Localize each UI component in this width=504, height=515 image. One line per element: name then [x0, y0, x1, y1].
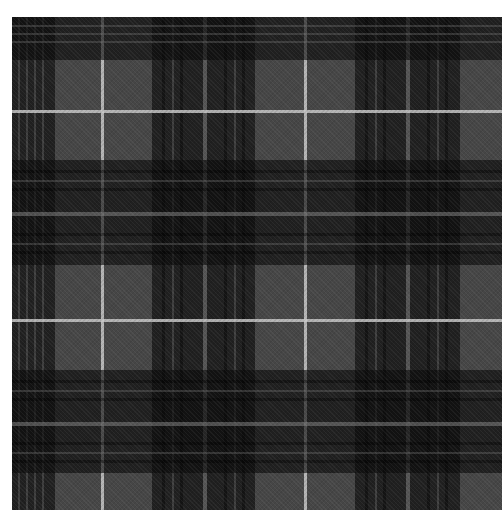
- horizontal-stripe: [12, 212, 502, 216]
- horizontal-stripe: [12, 170, 502, 173]
- horizontal-stripe: [12, 110, 502, 113]
- horizontal-stripe: [12, 41, 502, 43]
- horizontal-stripe: [12, 390, 502, 392]
- horizontal-stripe: [12, 398, 502, 401]
- horizontal-stripe: [12, 460, 502, 463]
- horizontal-stripe: [12, 422, 502, 426]
- tartan-fabric: [12, 17, 502, 510]
- horizontal-stripe: [12, 380, 502, 383]
- horizontal-stripe: [12, 442, 502, 445]
- horizontal-stripe: [12, 17, 502, 60]
- horizontal-stripe: [12, 188, 502, 191]
- horizontal-stripe: [12, 319, 502, 322]
- horizontal-stripe: [12, 452, 502, 454]
- horizontal-stripe: [12, 25, 502, 27]
- horizontal-stripe: [12, 180, 502, 182]
- horizontal-stripe: [12, 33, 502, 35]
- horizontal-stripe: [12, 251, 502, 254]
- horizontal-stripe: [12, 243, 502, 245]
- horizontal-stripe: [12, 233, 502, 236]
